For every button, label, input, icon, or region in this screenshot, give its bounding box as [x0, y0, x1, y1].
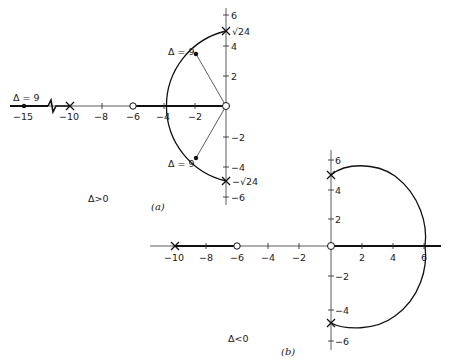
a-pole-label-upper: √24 [232, 26, 250, 37]
a-xlabel-minus6: −6 [126, 111, 140, 122]
root-locus-figure: −15 −10 −8 −6 −4 −2 6 4 2 −2 −4 −6 √24 −… [0, 0, 449, 364]
b-xlabel-minus10: −10 [164, 252, 184, 263]
b-ylabel-4: 4 [335, 185, 341, 196]
a-xlabel-minus15: −15 [13, 111, 33, 122]
b-xlabel-minus2: −2 [292, 252, 306, 263]
a-zero-icon-minus6 [130, 103, 136, 109]
b-ylabel-minus2: −2 [335, 271, 349, 282]
a-delta-label-axis: Δ = 9 [13, 92, 40, 103]
b-xlabel-minus4: −4 [261, 252, 275, 263]
a-delta-label-upper: Δ = 9 [168, 46, 195, 57]
a-xlabel-minus4: −4 [156, 111, 170, 122]
b-xlabel-minus8: −8 [199, 252, 213, 263]
a-pole-label-lower: −√24 [232, 176, 258, 187]
a-ylabel-minus2: −2 [231, 132, 245, 143]
a-ray-upper [196, 54, 226, 106]
b-ylabel-6: 6 [335, 155, 341, 166]
figure-b: −10 −8 −6 −4 −2 2 4 6 6 4 2 −2 −4 −6 Δ<0… [150, 150, 441, 357]
a-ylabel-minus4: −4 [231, 162, 245, 173]
a-ylabel-4: 4 [231, 41, 237, 52]
a-xlabel-minus2: −2 [188, 111, 202, 122]
a-xlabel-minus10: −10 [59, 111, 79, 122]
a-condition-label: Δ>0 [88, 193, 109, 204]
b-xlabel-4: 4 [390, 252, 396, 263]
b-zero-icon-minus6 [234, 243, 240, 249]
a-ylabel-2: 2 [231, 71, 237, 82]
b-condition-label: Δ<0 [228, 333, 249, 344]
b-ylabel-2: 2 [335, 214, 341, 225]
a-xlabel-minus8: −8 [94, 111, 108, 122]
b-zero-icon-origin [328, 243, 335, 250]
b-ylabel-minus4: −4 [335, 305, 349, 316]
a-zero-icon-origin [223, 103, 230, 110]
a-delta-label-lower: Δ = 9 [168, 158, 195, 169]
a-ylabel-minus6: −6 [231, 192, 245, 203]
b-xlabel-minus6: −6 [230, 252, 244, 263]
b-xlabel-2: 2 [359, 252, 365, 263]
b-caption: (b) [281, 346, 295, 357]
a-ylabel-6: 6 [231, 10, 237, 21]
b-xlabel-6: 6 [421, 252, 427, 263]
figure-a: −15 −10 −8 −6 −4 −2 6 4 2 −2 −4 −6 √24 −… [10, 8, 258, 212]
b-ylabel-minus6: −6 [335, 336, 349, 347]
a-delta-point-axis [22, 104, 26, 108]
a-caption: (a) [151, 201, 165, 212]
